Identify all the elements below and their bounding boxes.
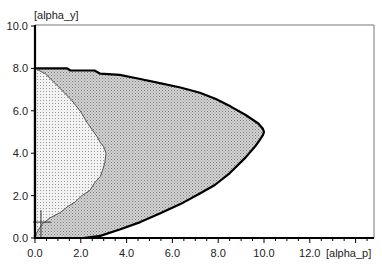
- y-tick-label: 2.0: [13, 190, 28, 202]
- plot-area: 0.02.04.06.08.010.012.0 0.02.04.06.08.01…: [0, 0, 382, 269]
- x-tick-label: 4.0: [119, 247, 134, 259]
- y-axis-label: [alpha_y]: [34, 9, 79, 21]
- y-tick-labels: 0.02.04.06.08.010.0: [7, 20, 28, 244]
- x-tick-label: 10.0: [253, 247, 274, 259]
- x-tick-labels: 0.02.04.06.08.010.012.0: [27, 247, 320, 259]
- y-tick-label: 4.0: [13, 147, 28, 159]
- x-tick-label: 6.0: [165, 247, 180, 259]
- y-tick-label: 0.0: [13, 232, 28, 244]
- x-tick-label: 0.0: [27, 247, 42, 259]
- x-tick-label: 8.0: [211, 247, 226, 259]
- x-tick-label: 2.0: [73, 247, 88, 259]
- y-tick-label: 10.0: [7, 20, 28, 32]
- x-axis-label: [alpha_p]: [326, 247, 371, 259]
- x-tick-label: 12.0: [299, 247, 320, 259]
- y-tick-label: 6.0: [13, 105, 28, 117]
- y-tick-label: 8.0: [13, 62, 28, 74]
